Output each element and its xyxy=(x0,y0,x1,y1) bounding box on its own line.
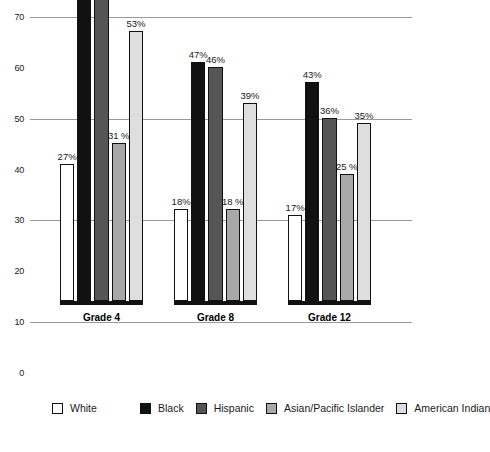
bar-slot: 35% xyxy=(357,0,371,301)
bar-slot: 17% xyxy=(288,0,302,301)
legend-item[interactable]: Black xyxy=(140,400,184,416)
bar-group: 18%47%46%18 %39%Grade 8 xyxy=(174,0,257,301)
legend-item[interactable]: Asian/Pacific Islander xyxy=(266,400,384,416)
bar-value-label: 46% xyxy=(203,55,227,65)
bar-value-label: 39% xyxy=(238,91,262,101)
y-tick-label-20: 20 xyxy=(0,267,24,276)
legend-swatch-icon xyxy=(266,403,277,414)
bar[interactable] xyxy=(226,209,240,301)
bar-value-label: 31 % xyxy=(107,131,131,141)
bar-slot: 46% xyxy=(208,0,222,301)
bar-slot: 39% xyxy=(243,0,257,301)
y-tick-label-60: 60 xyxy=(0,64,24,73)
group-label: Grade 12 xyxy=(268,312,391,323)
legend-item-label: Asian/Pacific Islander xyxy=(284,403,384,414)
y-tick-label-0: 0 xyxy=(0,369,24,378)
legend-swatch-icon xyxy=(396,403,407,414)
bar-value-label: 25 % xyxy=(335,162,359,172)
legend-item-label: Black xyxy=(158,403,184,414)
y-tick-label-40: 40 xyxy=(0,166,24,175)
legend-swatch-icon xyxy=(52,403,63,414)
bar-slot: 25 % xyxy=(340,0,354,301)
bar-value-label: 35% xyxy=(352,111,376,121)
bar-value-label: 17% xyxy=(283,203,307,213)
y-tick-label-70: 70 xyxy=(0,13,24,22)
legend-swatch-icon xyxy=(196,403,207,414)
bar-value-label: 27% xyxy=(55,152,79,162)
bar[interactable] xyxy=(191,62,205,301)
legend-item[interactable]: Hispanic xyxy=(196,400,254,416)
legend-item[interactable]: American Indian xyxy=(396,400,490,416)
bar-value-label: 18 % xyxy=(221,197,245,207)
bar[interactable] xyxy=(208,67,222,301)
bar[interactable] xyxy=(94,0,108,301)
bar-group-bars: 18%47%46%18 %39% xyxy=(174,0,257,301)
bar-group-bars: 27%64%60%31 %53% xyxy=(60,0,143,301)
group-label: Grade 8 xyxy=(154,312,277,323)
bar-group: 17%43%36%25 %35%Grade 12 xyxy=(288,0,371,301)
bar-slot: 43% xyxy=(305,0,319,301)
bar-slot: 18% xyxy=(174,0,188,301)
legend-item-label: American Indian xyxy=(414,403,490,414)
y-tick-label-30: 30 xyxy=(0,216,24,225)
bar[interactable] xyxy=(174,209,188,301)
group-label: Grade 4 xyxy=(40,312,163,323)
bar-slot: 53% xyxy=(129,0,143,301)
bar[interactable] xyxy=(288,215,302,301)
bar-slot: 18 % xyxy=(226,0,240,301)
bar-slot: 36% xyxy=(322,0,336,301)
legend-item[interactable]: White xyxy=(52,400,128,416)
legend-item-label: Hispanic xyxy=(214,403,254,414)
plot-area: 010203040506070 27%64%60%31 %53%Grade 41… xyxy=(0,0,412,380)
y-tick-label-50: 50 xyxy=(0,115,24,124)
bar-group: 27%64%60%31 %53%Grade 4 xyxy=(60,0,143,301)
y-tick-label-10: 10 xyxy=(0,318,24,327)
bar[interactable] xyxy=(60,164,74,301)
bar-slot: 27% xyxy=(60,0,74,301)
bar-slot: 31 % xyxy=(112,0,126,301)
bar-slot: 60% xyxy=(94,0,108,301)
legend-swatch-icon xyxy=(140,403,151,414)
bar[interactable] xyxy=(129,31,143,301)
bar[interactable] xyxy=(322,118,336,301)
bar[interactable] xyxy=(77,0,91,301)
bar[interactable] xyxy=(340,174,354,301)
chart-legend: WhiteBlackHispanicAsian/Pacific Islander… xyxy=(52,400,372,416)
group-baseline xyxy=(288,301,371,305)
bar-value-label: 36% xyxy=(317,106,341,116)
bar[interactable] xyxy=(243,103,257,301)
bar-value-label: 18% xyxy=(169,197,193,207)
bar-value-label: 53% xyxy=(124,19,148,29)
bar[interactable] xyxy=(112,143,126,301)
bar[interactable] xyxy=(357,123,371,301)
legend-item-label: White xyxy=(70,403,97,414)
bar-slot: 64% xyxy=(77,0,91,301)
group-baseline xyxy=(60,301,143,305)
group-baseline xyxy=(174,301,257,305)
bar-slot: 47% xyxy=(191,0,205,301)
bar-value-label: 43% xyxy=(300,70,324,80)
bar-group-bars: 17%43%36%25 %35% xyxy=(288,0,371,301)
